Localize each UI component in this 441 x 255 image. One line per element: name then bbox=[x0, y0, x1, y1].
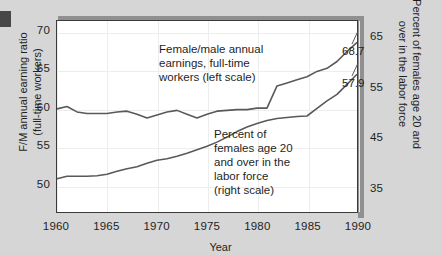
upper-series-end-value-label: 68.7 bbox=[342, 45, 364, 57]
x-axis-tick-label: 1990 bbox=[335, 220, 381, 232]
y-axis-right-tick-label: 35 bbox=[370, 182, 396, 194]
y-axis-left-tick-label: 50 bbox=[24, 178, 50, 190]
upper-series-annotation: Female/male annual earnings, full-time w… bbox=[159, 42, 263, 84]
line-series-labor-force bbox=[57, 74, 357, 179]
lower-series-end-value-label: 57.9 bbox=[342, 77, 364, 89]
x-axis-tick-label: 1970 bbox=[134, 220, 180, 232]
y-axis-right-tick-label: 65 bbox=[370, 30, 396, 42]
x-axis-tick-label: 1960 bbox=[33, 220, 79, 232]
corner-artifact-mark bbox=[0, 11, 11, 27]
y-axis-right-tick-label: 45 bbox=[370, 131, 396, 143]
x-axis-tick-label: 1985 bbox=[285, 220, 331, 232]
chart-figure: 5055606570 35455565 19601965197019751980… bbox=[0, 0, 441, 255]
x-axis-tick-label: 1980 bbox=[234, 220, 280, 232]
x-axis-title: Year bbox=[0, 241, 441, 253]
y-axis-left-title: F/M annual earning ratio (full-time work… bbox=[16, 12, 44, 172]
lower-series-annotation: Percent of females age 20 and over in th… bbox=[214, 127, 293, 197]
x-axis-tick-label: 1965 bbox=[83, 220, 129, 232]
x-axis-tick-label: 1975 bbox=[184, 220, 230, 232]
y-axis-right-tick-label: 55 bbox=[370, 81, 396, 93]
y-axis-right-title: Percent of females age 20 and over in th… bbox=[396, 0, 424, 154]
